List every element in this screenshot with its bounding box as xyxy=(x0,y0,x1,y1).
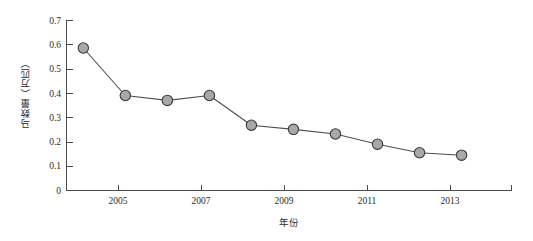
data-point xyxy=(204,90,214,100)
series-line xyxy=(83,48,461,155)
x-tick-label: 2011 xyxy=(358,196,377,206)
x-tick-label: 2013 xyxy=(441,196,460,206)
chart-canvas: 0.7 0.6 0.5 0.4 0.3 0.2 0.1 0 2005 2007 … xyxy=(0,0,533,241)
x-tick-label: 2007 xyxy=(192,196,211,206)
y-axis-tick-labels: 0.7 0.6 0.5 0.4 0.3 0.2 0.1 0 xyxy=(49,16,61,196)
y-tick-label: 0.1 xyxy=(49,161,61,171)
x-tick-label: 2009 xyxy=(275,196,294,206)
data-point xyxy=(330,129,340,139)
y-tick-label: 0.6 xyxy=(49,40,61,50)
series-markers xyxy=(78,43,467,161)
y-tick-label: 0.4 xyxy=(49,89,61,99)
data-point xyxy=(456,150,466,160)
y-axis-ticks xyxy=(67,21,73,167)
data-point xyxy=(246,120,256,130)
y-tick-label: 0.7 xyxy=(49,16,61,26)
data-point xyxy=(288,124,298,134)
data-point xyxy=(372,139,382,149)
data-point xyxy=(78,43,88,53)
x-axis-tick-labels: 2005 2007 2009 2011 2013 xyxy=(109,196,460,206)
y-tick-label: 0.5 xyxy=(49,64,61,74)
data-point xyxy=(162,95,172,105)
y-tick-label: 0.2 xyxy=(49,137,61,147)
y-tick-label: 0.3 xyxy=(49,113,61,123)
y-tick-label: 0 xyxy=(56,186,61,196)
line-chart: 马数量（万匹） 0.7 0.6 0.5 0.4 0.3 0.2 0.1 0 xyxy=(0,0,533,241)
data-point xyxy=(120,90,130,100)
x-tick-label: 2005 xyxy=(109,196,128,206)
data-point xyxy=(414,148,424,158)
x-axis-title: 年份 xyxy=(279,217,299,228)
x-axis-ticks xyxy=(118,185,512,191)
